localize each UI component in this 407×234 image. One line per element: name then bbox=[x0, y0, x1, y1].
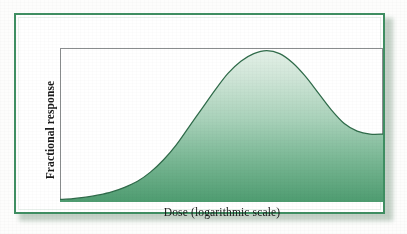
figure-frame: Fractional response Dose (logarithmic sc… bbox=[14, 13, 385, 214]
curve-area-fill bbox=[60, 51, 383, 202]
x-axis-label: Dose (logarithmic scale) bbox=[60, 206, 384, 218]
plot-area bbox=[60, 48, 383, 202]
figure-page: Fractional response Dose (logarithmic sc… bbox=[0, 0, 407, 234]
curve-fill-group bbox=[60, 51, 383, 202]
y-axis-label: Fractional response bbox=[40, 55, 60, 205]
dose-response-curve bbox=[60, 48, 383, 202]
